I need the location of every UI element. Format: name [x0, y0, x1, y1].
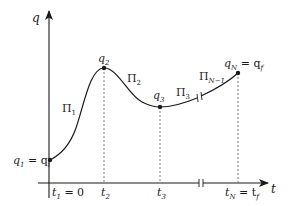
label-segment-pi2: Π2: [127, 72, 141, 87]
label-qN: qN = qf: [224, 57, 264, 72]
x-axis-break-icon: [199, 179, 203, 187]
y-axis-label: q: [32, 11, 40, 25]
curve-break-icon: [197, 92, 202, 102]
point-q3: [158, 105, 162, 109]
trajectory-diagram: q t q1 = qi q2 q3 qN = qf Π1 Π2 Π3 ΠN−1: [0, 0, 288, 206]
tick-label-t1: t1 = 0: [52, 186, 84, 201]
tick-label-t2: t2: [101, 186, 110, 201]
label-q3: q3: [153, 89, 165, 104]
label-q2: q2: [98, 52, 110, 67]
label-q1: q1 = qi: [13, 154, 50, 169]
label-segment-pi3: Π3: [176, 86, 190, 101]
tick-label-tN: tN = tf: [225, 186, 260, 201]
x-axis-label: t: [271, 182, 276, 196]
tick-label-t3: t3: [157, 186, 166, 201]
label-segment-piN1: ΠN−1: [199, 70, 225, 85]
diagram-canvas: q t q1 = qi q2 q3 qN = qf Π1 Π2 Π3 ΠN−1: [0, 0, 288, 206]
label-segment-pi1: Π1: [62, 102, 76, 117]
